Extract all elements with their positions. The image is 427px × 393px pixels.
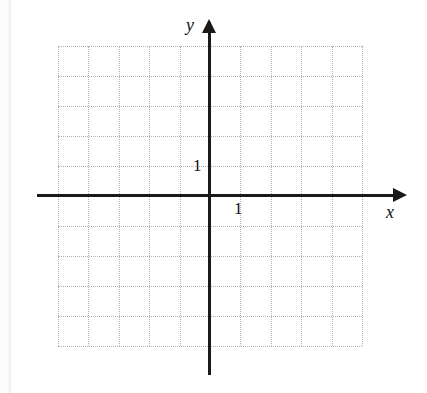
y-axis-tick-label-1: 1 — [193, 157, 202, 174]
y-axis-arrow-icon — [202, 19, 216, 33]
y-axis-line — [208, 22, 211, 375]
x-axis-tick-label-1: 1 — [234, 200, 243, 217]
x-axis-line — [37, 194, 400, 197]
x-axis-label: x — [386, 203, 394, 221]
y-axis-label: y — [186, 16, 194, 34]
coordinate-plot: y x 1 1 — [0, 0, 427, 393]
figure-page: y x 1 1 — [0, 0, 427, 393]
x-axis-arrow-icon — [393, 188, 407, 202]
